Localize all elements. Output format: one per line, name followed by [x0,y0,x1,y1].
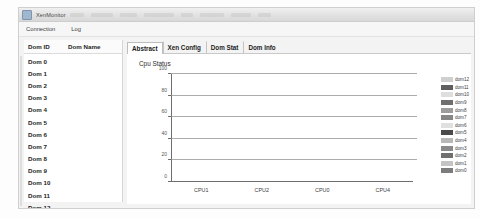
legend-swatch [441,85,453,90]
y-axis-tick-label: 80 [161,87,167,93]
legend-swatch [441,153,453,158]
x-axis-tick-label: CPU0 [292,187,353,193]
detail-panel: AbstractXen ConfigDom StatDom Info Cpu S… [123,36,474,208]
legend-swatch [441,115,453,120]
cpu-status-chart: Cpu Status 020406080100 CPU1CPU2CPU0CPU4… [127,54,471,204]
legend-entry: dom8 [441,106,469,114]
legend-swatch [441,146,453,151]
legend-entry: dom2 [441,152,469,160]
menu-item-connection[interactable]: Connection [24,25,57,33]
legend-entry: dom3 [441,144,469,152]
legend-label: dom5 [455,130,467,135]
dom-id-cell: Dom 10 [24,179,68,186]
dom-id-cell: Dom 0 [24,58,68,65]
column-header-dom-name[interactable]: Dom Name [68,43,122,50]
desktop-background: XenMonitor Connection Log Dom ID [0,0,480,218]
y-axis-tick-label: 40 [161,130,167,136]
y-axis-tick-label: 60 [161,108,167,114]
dom-list-row[interactable]: Dom 7 [24,140,122,152]
dom-list-row[interactable]: Dom 11 [24,189,122,201]
legend-swatch [441,130,453,135]
bar-slot: CPU4 [353,74,414,181]
window-body: Dom ID Dom Name Dom 0Dom 1Dom 2Dom 3Dom … [19,36,474,208]
dom-list-row[interactable]: Dom 12 [24,201,122,209]
legend-label: dom0 [455,168,467,173]
dom-list-row[interactable]: Dom 4 [24,104,122,116]
dom-id-cell: Dom 8 [24,155,68,162]
dom-list-panel: Dom ID Dom Name Dom 0Dom 1Dom 2Dom 3Dom … [24,40,123,202]
legend-swatch [441,161,453,166]
tab-strip: AbstractXen ConfigDom StatDom Info [127,40,471,54]
tab-dom-stat[interactable]: Dom Stat [206,41,244,53]
xenmonitor-window: XenMonitor Connection Log Dom ID [18,7,475,209]
x-axis-tick-label: CPU4 [353,187,414,193]
dom-id-cell: Dom 12 [24,204,68,209]
legend-label: dom3 [455,146,467,151]
legend-label: dom10 [455,92,469,97]
legend-swatch [441,108,453,113]
dom-list-row[interactable]: Dom 0 [24,55,122,67]
gridline [171,181,417,182]
tab-abstract[interactable]: Abstract [127,42,163,54]
bar-slot: CPU0 [292,74,353,181]
legend-label: dom1 [455,161,467,166]
dom-list-scrollbar[interactable] [20,56,22,206]
legend-entry: dom1 [441,160,469,168]
tab-dom-info[interactable]: Dom Info [243,41,280,53]
legend-swatch [441,123,453,128]
window-titlebar[interactable]: XenMonitor [19,8,474,22]
chart-legend: dom12dom11dom10dom9dom8dom7dom6dom5dom4d… [441,76,469,175]
y-axis-tick-label: 100 [159,65,167,71]
dom-list-row[interactable]: Dom 3 [24,92,122,104]
legend-label: dom8 [455,108,467,113]
tab-xen-config[interactable]: Xen Config [163,41,206,53]
dom-id-cell: Dom 2 [24,82,68,89]
dom-list-row[interactable]: Dom 10 [24,177,122,189]
dom-list-row[interactable]: Dom 6 [24,128,122,140]
legend-label: dom9 [455,100,467,105]
dom-id-cell: Dom 1 [24,70,68,77]
dom-list-row[interactable]: Dom 1 [24,67,122,79]
legend-entry: dom0 [441,167,469,175]
dom-id-cell: Dom 4 [24,106,68,113]
chart-bars: CPU1CPU2CPU0CPU4 [171,74,413,181]
dom-id-cell: Dom 11 [24,192,68,199]
bar-slot: CPU1 [171,74,232,181]
menubar: Connection Log [19,22,474,37]
legend-label: dom11 [455,85,469,90]
legend-label: dom6 [455,123,467,128]
legend-entry: dom5 [441,129,469,137]
legend-swatch [441,168,453,173]
titlebar-decoration [70,13,471,17]
y-axis-tick-label: 0 [164,173,167,179]
legend-label: dom2 [455,153,467,158]
legend-label: dom12 [455,77,469,82]
dom-list-rows: Dom 0Dom 1Dom 2Dom 3Dom 4Dom 5Dom 6Dom 7… [24,54,122,209]
x-axis-tick-label: CPU1 [171,187,232,193]
bar-slot: CPU2 [232,74,293,181]
dom-id-cell: Dom 7 [24,143,68,150]
legend-entry: dom9 [441,99,469,107]
menu-item-log[interactable]: Log [69,25,83,33]
legend-swatch [441,138,453,143]
dom-list-row[interactable]: Dom 2 [24,79,122,91]
dom-list-row[interactable]: Dom 8 [24,153,122,165]
legend-entry: dom12 [441,76,469,84]
legend-entry: dom11 [441,84,469,92]
dom-list-row[interactable]: Dom 5 [24,116,122,128]
legend-label: dom4 [455,138,467,143]
x-axis-tick-label: CPU2 [232,187,293,193]
window-title: XenMonitor [36,12,66,18]
chart-plot-area: 020406080100 CPU1CPU2CPU0CPU4 [171,74,413,182]
legend-swatch [441,100,453,105]
app-icon [22,10,32,20]
dom-id-cell: Dom 9 [24,167,68,174]
legend-swatch [441,92,453,97]
legend-swatch [441,77,453,82]
dom-list-header: Dom ID Dom Name [24,40,122,54]
dom-list-row[interactable]: Dom 9 [24,165,122,177]
column-header-dom-id[interactable]: Dom ID [24,43,68,50]
y-tick-mark [168,181,171,182]
dom-id-cell: Dom 3 [24,94,68,101]
legend-entry: dom10 [441,91,469,99]
